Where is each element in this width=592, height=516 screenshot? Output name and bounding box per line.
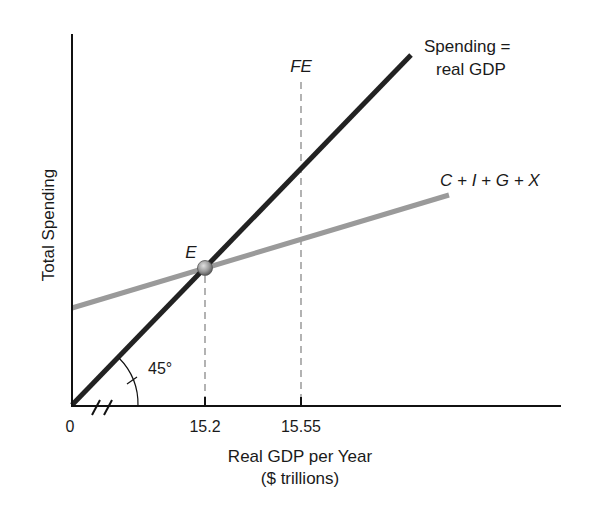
axis-break-icon bbox=[92, 400, 112, 415]
angle-arc bbox=[119, 358, 138, 406]
angle-arc-tick bbox=[127, 377, 137, 384]
forty-five-line-label-2: real GDP bbox=[436, 60, 506, 79]
x-axis-label: Real GDP per Year bbox=[228, 447, 373, 466]
chart-canvas: Total Spending 0 15.2 15.55 Real GDP per… bbox=[0, 0, 592, 516]
equilibrium-point bbox=[198, 261, 213, 276]
fe-label: FE bbox=[290, 57, 312, 76]
tick-label-15-55: 15.55 bbox=[281, 418, 321, 435]
tick-label-15-2: 15.2 bbox=[189, 418, 220, 435]
equilibrium-label: E bbox=[185, 243, 197, 262]
forty-five-degree-line bbox=[72, 55, 411, 405]
origin-label: 0 bbox=[66, 418, 75, 435]
angle-label: 45° bbox=[148, 360, 172, 377]
y-axis-label: Total Spending bbox=[39, 169, 58, 281]
x-axis-units: ($ trillions) bbox=[261, 469, 339, 488]
forty-five-line-label-1: Spending = bbox=[424, 37, 511, 56]
aggregate-expenditure-label: C + I + G + X bbox=[440, 171, 540, 190]
